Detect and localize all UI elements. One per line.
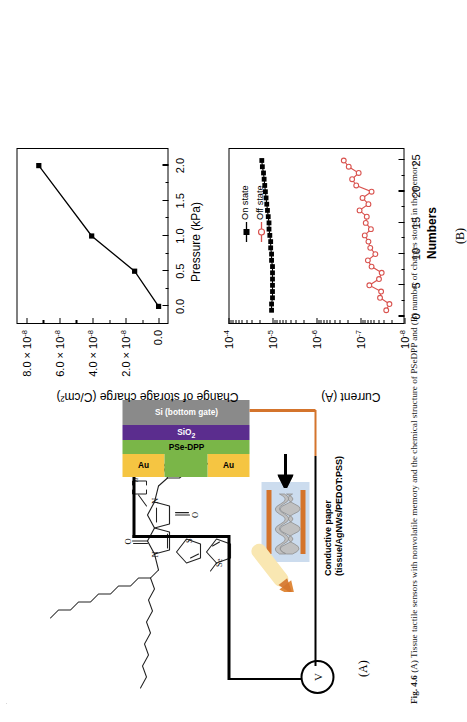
chart1-xtick-major xyxy=(162,305,168,306)
chart2-ytick-minor xyxy=(370,321,371,325)
chart1-xtick-major xyxy=(162,200,168,201)
chart1-xtick-major xyxy=(162,235,168,236)
chart2-ytick-minor xyxy=(274,321,275,325)
chart1-xticklabel: 0.0 xyxy=(173,297,185,315)
chart2-ytick-minor xyxy=(230,321,231,325)
atom-label-o-2: O xyxy=(189,512,199,518)
chart2-yticklabel: 10-6 xyxy=(309,330,323,366)
chart1-xticklabel: 2.0 xyxy=(173,157,185,175)
chart2-ytick-minor xyxy=(364,321,365,325)
atom-label-n-2: N xyxy=(149,498,159,504)
chart2-ytick-major xyxy=(404,318,405,324)
atom-label-o: O xyxy=(122,538,132,544)
chart1-xtick-minor xyxy=(165,217,169,218)
chart1-xtick-major xyxy=(162,164,168,165)
atom-label-se-2: Se xyxy=(213,558,223,567)
figure-caption-text: (A) Tissue tactile sensors with nonvolat… xyxy=(408,162,418,673)
chart1-xticklabel: 0.5 xyxy=(173,262,185,280)
chart2-ytick-major xyxy=(360,318,361,324)
chart2-xtick-major xyxy=(398,253,404,254)
chart2-ytick-minor xyxy=(246,321,247,325)
chart1-xtick-minor xyxy=(165,253,169,254)
chart1-ytick-minor xyxy=(42,321,43,325)
panel-a-id: (A) xyxy=(355,660,370,677)
chart2-ytick-minor xyxy=(259,321,260,325)
chart1-series-layer xyxy=(16,148,168,324)
electrode-au-right-label: Au xyxy=(222,461,233,471)
chart1-ytick-minor xyxy=(109,321,110,325)
chart2-legend-off-state: Off state xyxy=(254,185,264,220)
wire-meter-up xyxy=(228,678,301,681)
chart2-ytick-minor xyxy=(235,321,236,325)
chart2-ytick-minor xyxy=(326,321,327,325)
chart1-ytick-minor xyxy=(142,321,143,325)
chart2-legend: On state Off state xyxy=(238,154,268,244)
chart2-yticklabel: 10-5 xyxy=(265,330,279,366)
chart2-ytick-minor xyxy=(373,321,374,325)
chart2-ytick-major xyxy=(316,318,317,324)
chart2-xtick-minor xyxy=(401,175,405,176)
wire-top-rail xyxy=(227,536,230,681)
chart1-ytick-major xyxy=(158,318,159,324)
chart2-xtick-major xyxy=(398,159,404,160)
chart2-xtick-minor xyxy=(401,269,405,270)
wire-to-drain xyxy=(132,476,135,538)
chart2-ytick-minor xyxy=(320,321,321,325)
chart2-ytick-minor xyxy=(378,321,379,325)
chart2-ytick-minor xyxy=(303,321,304,325)
figure-number: Fig. 4.6 xyxy=(408,675,418,704)
chart2-ytick-minor xyxy=(367,321,368,325)
chart2-xtick-major xyxy=(398,222,404,223)
chart1-ytick-minor xyxy=(75,321,76,325)
chart2-ytick-minor xyxy=(347,321,348,325)
chart1-xtick-minor xyxy=(165,288,169,289)
wire-vertical-drop xyxy=(132,535,228,538)
chart2-ytick-minor xyxy=(334,321,335,325)
chart2-legend-on-state: On state xyxy=(239,185,249,220)
chart1-ytick-major xyxy=(59,318,60,324)
chart2-xtick-minor xyxy=(401,237,405,238)
chart2-yticklabel: 10-7 xyxy=(353,330,367,366)
chart2-ytick-minor xyxy=(362,321,363,325)
chart2-ytick-minor xyxy=(279,321,280,325)
conductive-paper-assembly xyxy=(255,444,317,584)
electrode-au-left-label: Au xyxy=(137,461,148,471)
chart2-ytick-minor xyxy=(323,321,324,325)
chart1-xticklabel: 1.0 xyxy=(173,227,185,245)
chart2-ytick-major xyxy=(228,318,229,324)
figure-caption: Fig. 4.6 (A) Tissue tactile sensors with… xyxy=(408,162,419,704)
chart2-ytick-minor xyxy=(251,321,252,325)
chart2-ytick-minor xyxy=(339,321,340,325)
chart2-ytick-minor xyxy=(285,321,286,325)
gate-connection-line xyxy=(249,409,315,412)
chart2-ytick-minor xyxy=(276,321,277,325)
chart2-ytick-minor xyxy=(318,321,319,325)
chart2-ytick-minor xyxy=(295,321,296,325)
chart2-yticklabel: 10-4 xyxy=(221,330,235,366)
chart2-ytick-minor xyxy=(282,321,283,325)
chart2-y-axis-title: Current (A) xyxy=(321,390,380,404)
chart2-ytick-minor xyxy=(391,321,392,325)
finger-press-icon xyxy=(237,520,309,592)
chart1-yticklabel: 8.0 × 10-8 xyxy=(19,330,33,410)
chart2-ytick-major xyxy=(272,318,273,324)
chart1-xticklabel: 1.5 xyxy=(173,192,185,210)
chart2-ytick-minor xyxy=(232,321,233,325)
chart1-x-axis-title: Pressure (kPa) xyxy=(188,202,202,282)
chart2-xtick-minor xyxy=(401,300,405,301)
semiconductor-label: PSe-DPP xyxy=(168,442,204,452)
chart1-xtick-minor xyxy=(165,182,169,183)
chart1-ytick-major xyxy=(125,318,126,324)
chart1-xtick-major xyxy=(162,270,168,271)
panel-b-id: (B) xyxy=(452,228,467,244)
chart2-ytick-minor xyxy=(383,321,384,325)
chart2-ytick-minor xyxy=(238,321,239,325)
chart2-xtick-major xyxy=(398,284,404,285)
voltmeter-label: V xyxy=(311,673,323,681)
atom-label-n: N xyxy=(149,551,159,557)
chart1-ytick-major xyxy=(26,318,27,324)
chart1-ytick-major xyxy=(92,318,93,324)
pressure-arrow-icon xyxy=(277,454,293,488)
dielectric-label: SiO2 xyxy=(176,427,194,439)
